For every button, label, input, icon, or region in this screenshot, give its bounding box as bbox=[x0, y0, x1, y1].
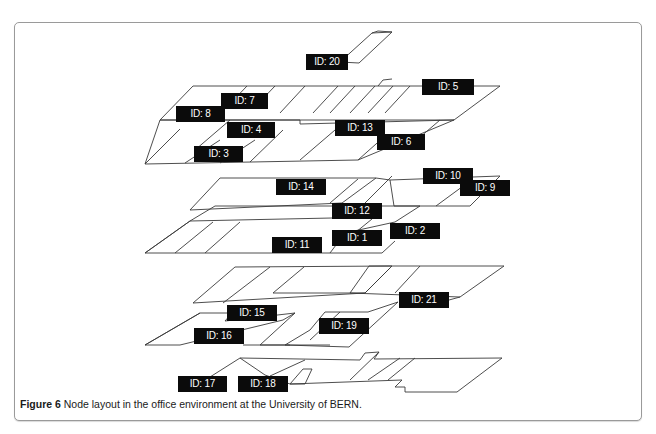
node-label-16: ID: 16 bbox=[194, 328, 244, 344]
figure-label: Figure 6 bbox=[20, 398, 61, 410]
node-label-21: ID: 21 bbox=[399, 292, 449, 308]
node-label-9: ID: 9 bbox=[460, 180, 510, 196]
node-label-11: ID: 11 bbox=[272, 237, 322, 253]
node-label-4: ID: 4 bbox=[227, 122, 275, 138]
node-label-7: ID: 7 bbox=[221, 93, 268, 109]
node-label-3: ID: 3 bbox=[194, 146, 243, 162]
figure-caption: Figure 6 Node layout in the office envir… bbox=[20, 398, 362, 410]
node-label-20: ID: 20 bbox=[306, 54, 348, 70]
node-label-14: ID: 14 bbox=[276, 179, 326, 195]
node-label-18: ID: 18 bbox=[238, 376, 288, 392]
figure-caption-text: Node layout in the office environment at… bbox=[64, 398, 362, 410]
node-label-2: ID: 2 bbox=[390, 223, 440, 239]
node-label-8: ID: 8 bbox=[176, 106, 225, 122]
node-label-19: ID: 19 bbox=[319, 318, 369, 334]
node-label-6: ID: 6 bbox=[377, 134, 425, 150]
node-label-5: ID: 5 bbox=[422, 79, 474, 95]
node-label-17: ID: 17 bbox=[178, 376, 227, 392]
node-label-12: ID: 12 bbox=[332, 203, 382, 219]
node-label-15: ID: 15 bbox=[227, 305, 277, 321]
node-label-1: ID: 1 bbox=[332, 230, 382, 246]
